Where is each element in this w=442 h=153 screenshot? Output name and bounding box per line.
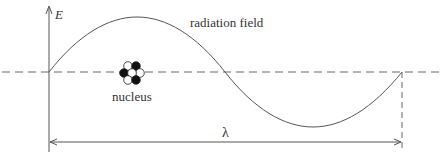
wavelength-label: λ [222, 125, 229, 140]
radiation-field-diagram: E radiation field nucleus λ [0, 0, 442, 153]
nucleus-label: nucleus [112, 89, 152, 104]
radiation-wave [49, 17, 402, 127]
nucleus-icon [120, 62, 145, 85]
e-axis-label: E [54, 7, 63, 22]
radiation-field-label: radiation field [190, 15, 264, 30]
